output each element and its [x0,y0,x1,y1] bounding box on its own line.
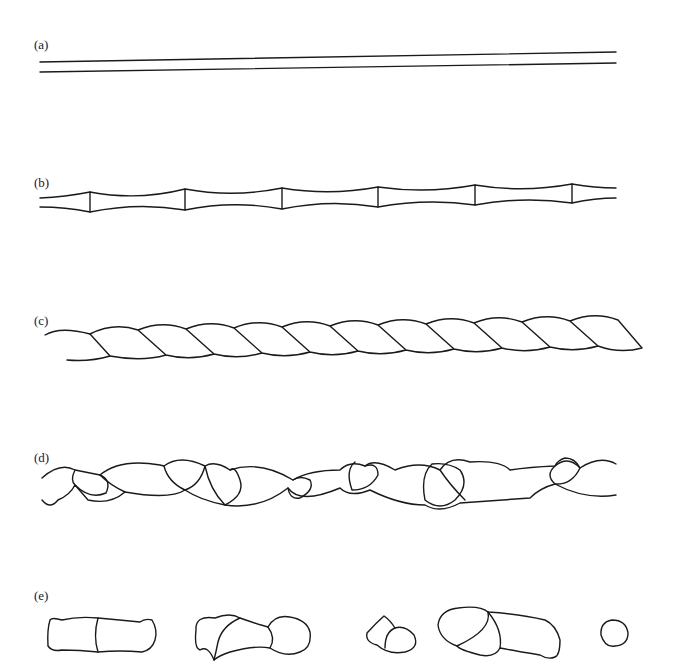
figure: (a) (b) (c) (d) (e) [0,0,688,661]
panel-b-filament [40,184,616,212]
panel-a-filament [40,52,616,72]
panel-d-irregular-filament [42,458,616,509]
panel-c-twisted-filament [45,316,642,361]
figure-drawing [0,0,688,661]
panel-e-fragments [48,607,628,660]
